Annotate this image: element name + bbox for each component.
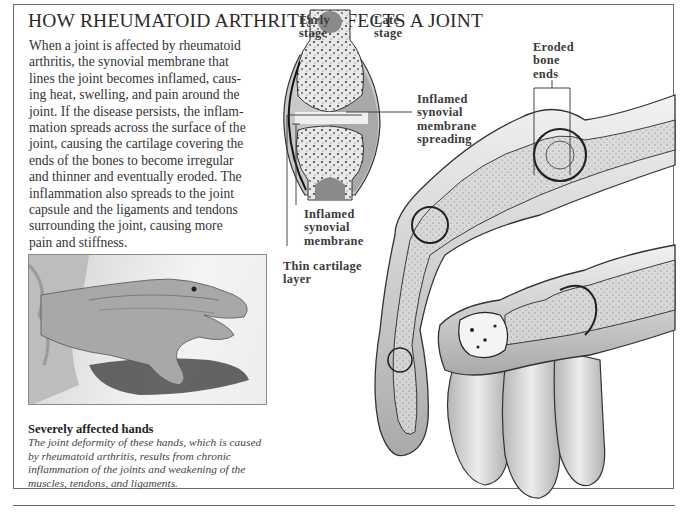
photo-caption-title: Severely affected hands <box>28 422 153 437</box>
label-inflamed-synovial-membrane-spreading: Inflamed synovial membrane spreading <box>417 93 477 147</box>
hand-photo-icon <box>29 255 267 405</box>
label-inflamed-synovial-membrane: Inflamed synovial membrane <box>304 208 364 248</box>
affected-hand-photo <box>28 254 267 405</box>
label-early-stage: Early stage <box>299 14 330 41</box>
caption-line: The joint deformity of these hands, whic… <box>28 436 278 450</box>
caption-line: by rheumatoid arthritis, results from ch… <box>28 450 278 464</box>
label-eroded-bone-ends: Eroded bone ends <box>533 41 574 81</box>
label-thin-cartilage-layer: Thin cartilage layer <box>283 260 362 287</box>
label-late-stage: Late stage <box>374 14 402 41</box>
photo-caption-body: The joint deformity of these hands, whic… <box>28 436 278 490</box>
caption-line: inflammation of the joints and weakening… <box>28 463 278 477</box>
caption-line: muscles, tendons, and ligaments. <box>28 477 278 491</box>
